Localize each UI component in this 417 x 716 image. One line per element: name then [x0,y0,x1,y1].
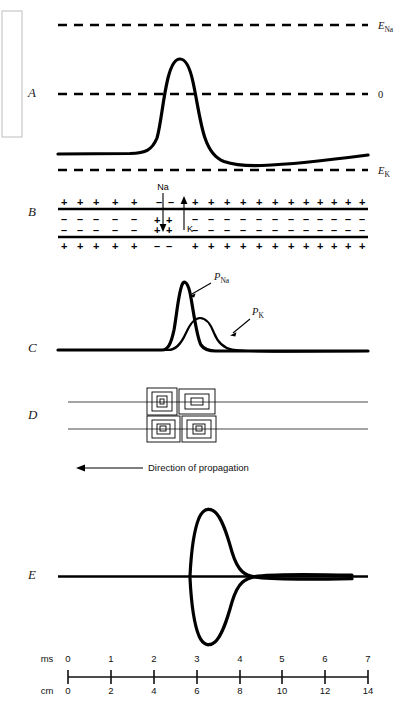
svg-text:+: + [288,196,294,208]
svg-text:–: – [154,240,160,252]
axis-unit-ms: ms [41,653,54,664]
propagation-label: Direction of propagation [148,462,249,473]
svg-text:+: + [317,240,323,252]
svg-text:+: + [131,196,137,208]
svg-text:+: + [317,196,323,208]
figure-root: A ENa 0 EK B ++ ++ + –– ++ ++ ++ ++ ++ +… [0,0,417,716]
svg-text:–: – [224,224,230,236]
panel-c-letter: C [28,340,37,355]
svg-text:+: + [192,240,198,252]
svg-text:–: – [317,224,323,236]
panel-e-letter: E [27,567,36,582]
cm-tick-4: 8 [237,685,242,696]
cm-tick-0: 0 [65,685,70,696]
svg-text:–: – [256,224,262,236]
svg-text:–: – [208,224,214,236]
svg-text:+: + [131,240,137,252]
cm-tick-2: 4 [151,685,156,696]
svg-text:+: + [208,196,214,208]
ms-tick-7: 7 [365,653,370,664]
svg-text:–: – [168,196,174,208]
panel-a-letter: A [27,85,36,100]
svg-text:–: – [331,224,337,236]
svg-text:+: + [345,196,351,208]
svg-text:+: + [240,196,246,208]
svg-text:–: – [131,224,137,236]
svg-text:+: + [359,240,365,252]
svg-text:–: – [345,224,351,236]
ms-tick-0: 0 [65,653,70,664]
svg-text:–: – [288,224,294,236]
svg-text:–: – [61,224,67,236]
cm-tick-3: 6 [194,685,199,696]
svg-text:+: + [272,196,278,208]
svg-text:–: – [112,224,118,236]
figure-background [0,0,417,716]
svg-text:+: + [345,240,351,252]
svg-text:+: + [331,196,337,208]
svg-text:–: – [240,224,246,236]
svg-text:–: – [359,224,365,236]
panel-d-letter: D [27,407,38,422]
svg-text:+: + [256,240,262,252]
cm-tick-6: 12 [320,685,331,696]
ms-tick-4: 4 [237,653,242,664]
svg-text:+: + [224,196,230,208]
svg-text:–: – [156,196,162,208]
svg-text:+: + [208,240,214,252]
svg-text:+: + [192,196,198,208]
panel-b-letter: B [28,204,36,219]
svg-text:+: + [93,240,99,252]
svg-text:+: + [166,224,172,236]
ms-tick-1: 1 [108,653,113,664]
svg-text:+: + [61,240,67,252]
svg-text:+: + [359,196,365,208]
ms-tick-2: 2 [151,653,156,664]
svg-text:+: + [112,196,118,208]
svg-text:+: + [93,196,99,208]
ms-tick-5: 5 [279,653,284,664]
ms-tick-6: 6 [322,653,327,664]
svg-text:+: + [288,240,294,252]
svg-text:–: – [303,224,309,236]
svg-text:+: + [256,196,262,208]
svg-text:–: – [77,224,83,236]
axis-unit-cm: cm [41,685,54,696]
svg-text:+: + [77,240,83,252]
svg-text:–: – [93,224,99,236]
svg-text:+: + [240,240,246,252]
svg-text:+: + [303,196,309,208]
svg-text:+: + [331,240,337,252]
svg-text:+: + [272,240,278,252]
cm-tick-7: 14 [363,685,374,696]
svg-text:–: – [166,240,172,252]
k-flux-label: K [187,224,193,234]
svg-text:+: + [303,240,309,252]
svg-text:+: + [154,224,160,236]
svg-text:+: + [61,196,67,208]
svg-text:+: + [77,196,83,208]
zero-label: 0 [378,89,383,100]
ms-tick-3: 3 [194,653,199,664]
svg-text:–: – [272,224,278,236]
svg-text:+: + [224,240,230,252]
cm-tick-5: 10 [277,685,288,696]
na-flux-label: Na [157,182,169,192]
cm-tick-1: 2 [108,685,113,696]
svg-text:+: + [112,240,118,252]
